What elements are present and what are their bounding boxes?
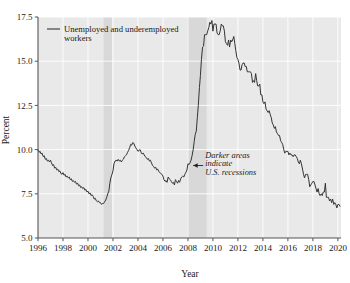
x-tick-label: 2006 (154, 243, 173, 253)
y-tick-label: 17.5 (17, 12, 33, 22)
y-tick-label: 10.0 (17, 145, 33, 155)
y-tick-label: 12.5 (17, 101, 33, 111)
y-tick-label: 7.5 (21, 189, 33, 199)
x-tick-label: 2008 (179, 243, 198, 253)
unemployment-line-chart: 1996199820002002200420062008201020122014… (0, 0, 350, 283)
y-tick-label: 5.0 (21, 233, 33, 243)
y-tick-label: 15.0 (17, 56, 33, 66)
x-axis-title: Year (181, 269, 199, 279)
x-tick-label: 2014 (254, 243, 273, 253)
x-tick-label: 2004 (129, 243, 148, 253)
recession-2001 (104, 17, 112, 238)
x-tick-label: 2012 (229, 243, 247, 253)
x-tick-label: 2020 (329, 243, 348, 253)
legend-label-cont: workers (64, 33, 92, 43)
x-tick-label: 1996 (29, 243, 48, 253)
chart-figure: 1996199820002002200420062008201020122014… (0, 0, 350, 283)
y-axis-title: Percent (1, 115, 11, 144)
x-tick-label: 2000 (79, 243, 98, 253)
x-tick-label: 2010 (204, 243, 223, 253)
annotation-line: U.S. recessions (205, 168, 256, 177)
x-tick-label: 1998 (54, 243, 73, 253)
x-tick-label: 2018 (304, 243, 323, 253)
x-tick-label: 2002 (104, 243, 122, 253)
x-tick-label: 2016 (279, 243, 298, 253)
